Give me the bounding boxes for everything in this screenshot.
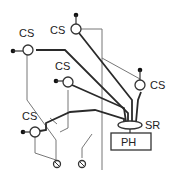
sensor-circle-icon xyxy=(63,77,73,87)
sensor-label: CS xyxy=(150,79,165,91)
box-label: PH xyxy=(121,136,136,148)
ring-icon xyxy=(118,121,142,129)
ph-box: PH xyxy=(111,133,151,150)
sensor-wiring-diagram: CS CS CS CS CS SR PH xyxy=(0,0,181,183)
sensor-cs-3: CS xyxy=(54,60,73,87)
sensor-label: CS xyxy=(55,60,70,72)
sensor-circle-icon xyxy=(23,45,33,55)
sensor-label: CS xyxy=(50,24,65,36)
ground-terminal-right xyxy=(79,161,86,168)
sensor-circle-icon xyxy=(135,80,145,90)
sensor-label: CS xyxy=(22,110,37,122)
ground-terminal-left xyxy=(54,161,61,168)
sensor-circle-icon xyxy=(30,127,40,137)
sensor-circle-icon xyxy=(71,24,81,34)
ring-label: SR xyxy=(145,119,160,131)
sensor-cs-5: CS xyxy=(21,110,40,137)
slip-ring: SR xyxy=(118,119,160,133)
sensor-label: CS xyxy=(19,27,34,39)
sensor-cs-4: CS xyxy=(135,68,165,91)
sensor-cs-1: CS xyxy=(11,27,35,55)
sensor-cs-2: CS xyxy=(50,13,81,36)
thick-cables xyxy=(36,33,141,131)
